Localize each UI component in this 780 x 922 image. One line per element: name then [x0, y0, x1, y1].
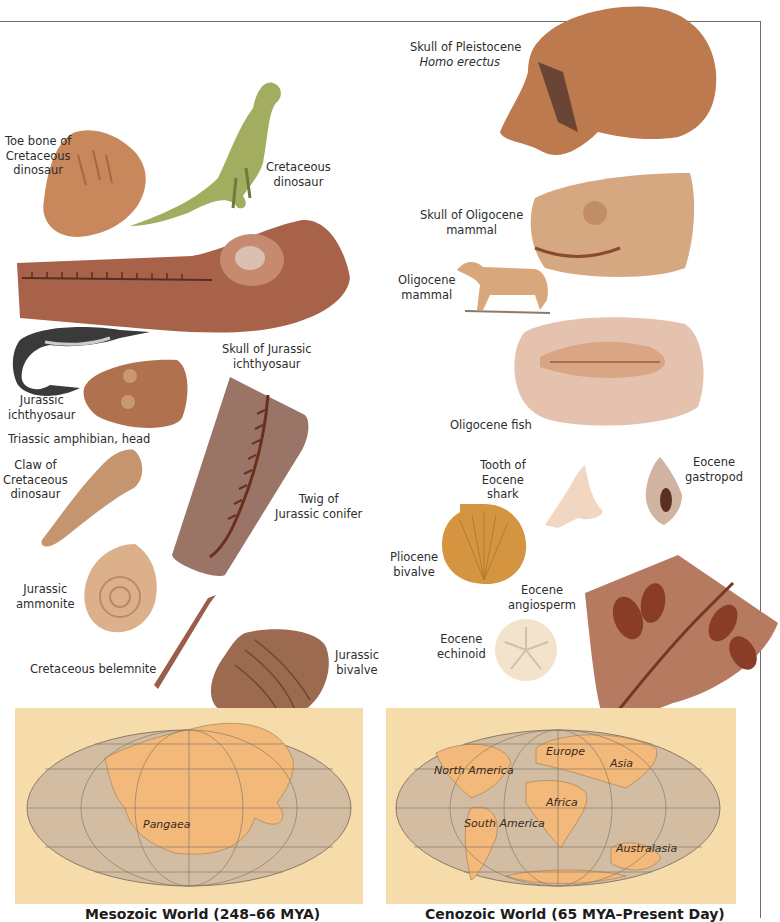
map-label-europe: Europe: [546, 745, 585, 758]
mesozoic-map-projection: [15, 708, 363, 904]
eocene-gastropod-fossil: [642, 455, 684, 527]
label-cretaceous-dinosaur: Cretaceous dinosaur: [266, 160, 331, 189]
jurassic-conifer-fossil-slab: [170, 375, 315, 580]
label-oligocene-skull: Skull of Oligocene mammal: [420, 208, 523, 237]
label-gastropod: Eocene gastropod: [685, 455, 743, 484]
caption-mesozoic-world: Mesozoic World (248–66 MYA): [85, 906, 320, 922]
label-ammonite: Jurassic ammonite: [16, 582, 75, 611]
label-jurassic-bivalve: Jurassic bivalve: [335, 648, 379, 677]
label-echinoid: Eocene echinoid: [437, 632, 486, 661]
map-label-pangaea: Pangaea: [143, 818, 191, 831]
mesozoic-world-map: Pangaea: [15, 708, 363, 904]
label-shark-tooth: Tooth of Eocene shark: [480, 458, 526, 502]
label-oligocene-fish: Oligocene fish: [450, 418, 532, 433]
jurassic-ammonite-fossil: [80, 542, 160, 637]
map-label-australasia: Australasia: [616, 842, 677, 855]
label-oligocene-mammal: Oligocene mammal: [398, 273, 456, 302]
label-conifer: Twig of Jurassic conifer: [275, 492, 362, 521]
caption-cenozoic-world: Cenozoic World (65 MYA–Present Day): [425, 906, 725, 922]
map-label-africa: Africa: [546, 796, 578, 809]
label-belemnite: Cretaceous belemnite: [30, 662, 156, 677]
oligocene-mammal-illustration: [455, 255, 555, 315]
homo-erectus-skull-fossil: [498, 2, 720, 160]
label-ichthyosaur-skull: Skull of Jurassic ichthyosaur: [222, 342, 312, 371]
label-pliocene-bivalve: Pliocene bivalve: [390, 550, 438, 579]
map-label-asia: Asia: [610, 757, 633, 770]
label-claw: Claw of Cretaceous dinosaur: [3, 458, 68, 502]
pliocene-bivalve-fossil: [440, 500, 528, 585]
eocene-echinoid-fossil: [493, 617, 559, 683]
cenozoic-world-map: North America Europe Asia Africa South A…: [386, 708, 736, 904]
map-label-north-america: North America: [434, 764, 514, 777]
label-jurassic-ichthyosaur: Jurassic ichthyosaur: [8, 393, 76, 422]
cretaceous-dinosaur-illustration: [128, 78, 288, 228]
label-triassic-amphibian: Triassic amphibian, head: [8, 432, 150, 447]
eocene-shark-tooth-fossil: [543, 463, 605, 533]
label-angiosperm: Eocene angiosperm: [508, 583, 576, 612]
oligocene-fish-fossil: [510, 312, 710, 432]
eocene-angiosperm-fossil-slab: [583, 553, 779, 731]
map-label-south-america: South America: [464, 817, 545, 830]
frame-right-rule: [760, 21, 761, 918]
label-toe-bone: Toe bone of Cretaceous dinosaur: [5, 134, 71, 178]
label-homo-erectus: Skull of Pleistocene Homo erectus: [410, 40, 500, 69]
